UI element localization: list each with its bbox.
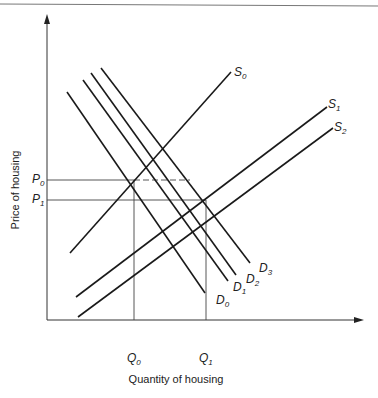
x-axis-arrow-icon [354,317,364,323]
demand-curve-d0 [67,92,205,293]
housing-supply-demand-diagram: S0 S1 S2 D0 D1 D2 D3 P0 P1 Q0 Q1 Quantit… [0,0,378,398]
demand-curves [67,68,250,293]
supply-curve-s0 [70,72,231,253]
label-q0: Q0 [127,351,141,367]
demand-curve-d3 [101,68,250,263]
supply-curve-s1 [76,107,327,297]
label-d1: D1 [233,280,246,296]
y-axis-arrow-icon [44,14,50,24]
label-d2: D2 [246,272,260,288]
label-p1: P1 [32,192,44,208]
label-q1: Q1 [199,351,213,367]
label-s2: S2 [334,120,347,136]
demand-curve-d2 [91,73,236,275]
label-p0: P0 [32,172,45,188]
label-d0: D0 [216,293,230,309]
x-axis-title: Quantity of housing [129,373,224,385]
label-d3: D3 [259,261,273,277]
top-rule [0,4,378,6]
label-s1-text: S1 [328,97,340,113]
label-s0: S0 [234,65,247,81]
supply-curve-s2 [78,128,333,317]
supply-curves [70,72,333,317]
axes [44,14,364,323]
y-axis-title: Price of housing [9,151,21,230]
demand-curve-d1 [83,80,228,281]
